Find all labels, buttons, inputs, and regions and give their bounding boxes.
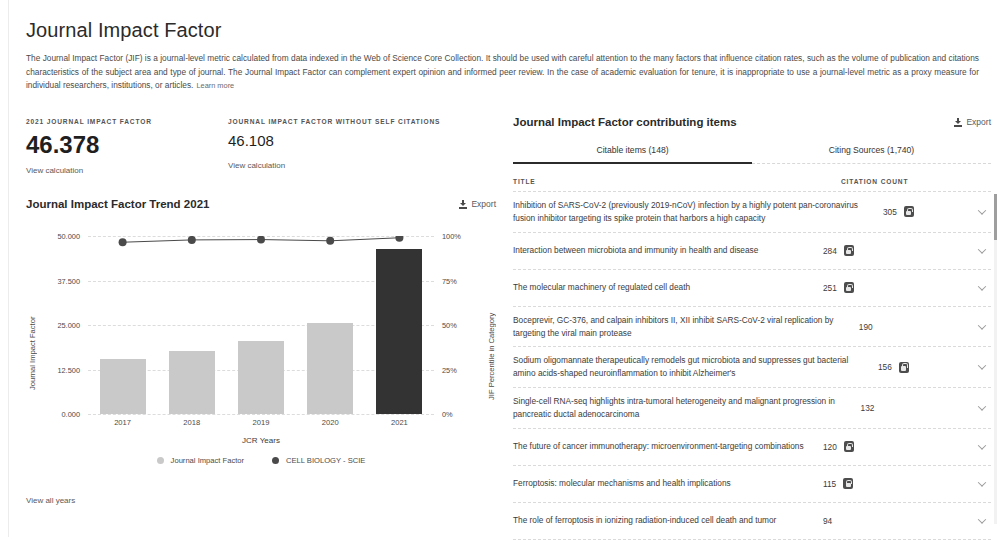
gridline xyxy=(88,414,434,415)
row-title[interactable]: The future of cancer immunotherapy: micr… xyxy=(513,440,823,453)
y2-axis-tick-label: 25% xyxy=(442,365,457,374)
metric-jif-view-calculation-link[interactable]: View calculation xyxy=(26,166,152,175)
table-row[interactable]: Boceprevir, GC-376, and calpain inhibito… xyxy=(513,307,991,348)
legend-label-jif: Journal Impact Factor xyxy=(171,456,244,465)
metric-jif-no-self-citations-view-calculation-link[interactable]: View calculation xyxy=(228,161,440,170)
jif-trend-header: Journal Impact Factor Trend 2021 Export xyxy=(26,198,496,210)
plot-area: 0.0000%12.50025%25.00050%37.50075%50.000… xyxy=(88,236,434,414)
table-row[interactable]: The role of ferroptosis in ionizing radi… xyxy=(513,503,991,540)
items-list: Inhibition of SARS-CoV-2 (previously 201… xyxy=(513,192,991,540)
table-row[interactable]: The future of cancer immunotherapy: micr… xyxy=(513,429,991,466)
metric-jif-no-self-citations-label: JOURNAL IMPACT FACTOR WITHOUT SELF CITAT… xyxy=(228,118,440,125)
expand-row-button[interactable] xyxy=(973,518,991,524)
tab-citing-sources[interactable]: Citing Sources (1,740) xyxy=(752,145,991,164)
row-citation-count-value: 115 xyxy=(823,479,836,489)
expand-row-button[interactable] xyxy=(973,285,991,291)
open-access-icon xyxy=(844,441,854,452)
expand-row-button[interactable] xyxy=(973,405,991,411)
jif-trend-card: Journal Impact Factor Trend 2021 Export … xyxy=(26,198,496,439)
chevron-down-icon xyxy=(978,206,986,214)
expand-row-button[interactable] xyxy=(973,209,991,215)
y-axis-tick-label: 37.500 xyxy=(57,276,80,285)
open-access-icon xyxy=(899,362,909,373)
row-citation-count-value: 120 xyxy=(823,442,837,452)
legend-marker-icon-category xyxy=(272,457,279,464)
row-citation-count: 120 xyxy=(823,441,973,452)
intro-body: The Journal Impact Factor (JIF) is a jou… xyxy=(26,53,979,90)
row-title[interactable]: Single-cell RNA-seq highlights intra-tum… xyxy=(513,395,861,421)
items-scrollbar[interactable] xyxy=(994,194,997,524)
row-title[interactable]: Boceprevir, GC-376, and calpain inhibito… xyxy=(513,314,859,340)
x-axis-tick-label: 2017 xyxy=(88,418,157,427)
tab-citable-items[interactable]: Citable items (148) xyxy=(513,145,752,164)
metric-jif-no-self-citations-value: 46.108 xyxy=(228,133,440,148)
percentile-point-2019[interactable] xyxy=(257,236,265,244)
table-row[interactable]: Ferroptosis: molecular mechanisms and he… xyxy=(513,466,991,503)
open-access-icon xyxy=(844,245,854,256)
page-left-rule xyxy=(8,0,9,537)
table-row[interactable]: Interaction between microbiota and immun… xyxy=(513,233,991,270)
y2-axis-tick-label: 75% xyxy=(442,276,457,285)
row-title[interactable]: Ferroptosis: molecular mechanisms and he… xyxy=(513,477,823,490)
percentile-point-2017[interactable] xyxy=(119,238,127,246)
percentile-point-2020[interactable] xyxy=(326,237,334,245)
column-header-title: TITLE xyxy=(513,178,841,185)
row-citation-count-value: 94 xyxy=(823,516,832,526)
percentile-point-2021[interactable] xyxy=(395,236,403,242)
row-citation-count: 94 xyxy=(823,516,973,526)
metric-jif-value: 46.378 xyxy=(26,133,152,157)
metric-jif: 2021 JOURNAL IMPACT FACTOR 46.378 View c… xyxy=(26,118,152,175)
legend-label-category: CELL BIOLOGY - SCIE xyxy=(286,456,365,465)
table-row[interactable]: Sodium oligomannate therapeutically remo… xyxy=(513,347,991,388)
expand-row-button[interactable] xyxy=(973,444,991,450)
y2-axis-tick-label: 100% xyxy=(442,232,461,241)
items-scrollbar-thumb[interactable] xyxy=(994,194,997,240)
download-icon xyxy=(954,118,962,127)
row-title[interactable]: The role of ferroptosis in ionizing radi… xyxy=(513,514,823,527)
expand-row-button[interactable] xyxy=(973,481,991,487)
chevron-down-icon xyxy=(978,321,986,329)
row-citation-count: 115 xyxy=(823,478,973,489)
chart-legend: Journal Impact Factor CELL BIOLOGY - SCI… xyxy=(88,456,434,465)
legend-item-category[interactable]: CELL BIOLOGY - SCIE xyxy=(272,456,365,465)
y-axis-tick-label: 12.500 xyxy=(57,365,80,374)
x-axis-tick-label: 2018 xyxy=(157,418,226,427)
table-row[interactable]: The molecular machinery of regulated cel… xyxy=(513,270,991,307)
legend-item-journal-impact-factor[interactable]: Journal Impact Factor xyxy=(157,456,244,465)
column-header-citation-count: CITATION COUNT xyxy=(841,178,991,185)
row-title[interactable]: The molecular machinery of regulated cel… xyxy=(513,281,823,294)
x-axis-tick-label: 2019 xyxy=(226,418,295,427)
percentile-point-2018[interactable] xyxy=(188,236,196,244)
chevron-down-icon xyxy=(978,245,986,253)
table-row[interactable]: Single-cell RNA-seq highlights intra-tum… xyxy=(513,388,991,429)
row-citation-count: 132 xyxy=(861,403,973,413)
table-row[interactable]: Inhibition of SARS-CoV-2 (previously 201… xyxy=(513,192,991,233)
jif-trend-title: Journal Impact Factor Trend 2021 xyxy=(26,198,209,210)
learn-more-link[interactable]: Learn more xyxy=(196,81,234,90)
metric-jif-no-self-citations: JOURNAL IMPACT FACTOR WITHOUT SELF CITAT… xyxy=(228,118,440,170)
row-title[interactable]: Inhibition of SARS-CoV-2 (previously 201… xyxy=(513,199,883,225)
row-title[interactable]: Sodium oligomannate therapeutically remo… xyxy=(513,354,878,380)
chevron-down-icon xyxy=(978,282,986,290)
chevron-down-icon xyxy=(978,402,986,410)
view-all-years-link[interactable]: View all years xyxy=(26,496,75,505)
expand-row-button[interactable] xyxy=(973,248,991,254)
row-citation-count: 190 xyxy=(859,322,973,332)
row-citation-count-value: 305 xyxy=(883,207,897,217)
row-citation-count: 156 xyxy=(878,362,973,373)
row-title[interactable]: Interaction between microbiota and immun… xyxy=(513,244,823,257)
row-citation-count-value: 284 xyxy=(823,246,837,256)
chart-export-button[interactable]: Export xyxy=(459,199,496,209)
open-access-icon xyxy=(844,282,854,293)
chevron-down-icon xyxy=(978,515,986,523)
expand-row-button[interactable] xyxy=(973,324,991,330)
row-citation-count-value: 251 xyxy=(823,283,837,293)
row-citation-count: 251 xyxy=(823,282,973,293)
row-citation-count: 305 xyxy=(883,206,973,217)
expand-row-button[interactable] xyxy=(973,364,991,370)
x-axis-tick-label: 2020 xyxy=(296,418,365,427)
x-axis-tick-label: 2021 xyxy=(365,418,434,427)
x-axis-ticks: 20172018201920202021 xyxy=(88,418,434,427)
items-column-headers: TITLE CITATION COUNT xyxy=(513,178,991,192)
items-export-button[interactable]: Export xyxy=(954,117,991,127)
